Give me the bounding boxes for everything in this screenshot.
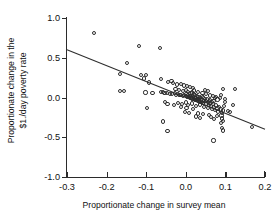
- x-axis-label: Proportionate change in survey mean: [36, 200, 272, 210]
- data-point: [198, 116, 202, 120]
- data-point: [186, 90, 190, 94]
- y-tick-label: -1.0: [44, 172, 60, 182]
- data-point: [159, 77, 163, 81]
- data-point: [125, 61, 129, 65]
- x-tick-label: -0.3: [59, 182, 75, 192]
- data-point: [221, 108, 225, 112]
- data-point: [122, 89, 126, 93]
- data-point: [228, 110, 232, 114]
- data-point: [165, 129, 169, 133]
- data-points: [67, 18, 265, 177]
- data-point: [221, 87, 225, 91]
- data-point: [179, 105, 183, 109]
- data-point: [184, 106, 188, 110]
- data-point: [183, 110, 187, 114]
- data-point: [145, 106, 149, 110]
- x-tick-label: 0.2: [259, 182, 272, 192]
- data-point: [223, 97, 227, 101]
- x-tick-label: -0.1: [138, 182, 154, 192]
- data-point: [218, 96, 222, 100]
- data-point: [221, 128, 225, 132]
- plot-area: -1.0-0.50.00.51.0 -0.3-0.2-0.10.00.10.2: [66, 18, 265, 178]
- data-point: [143, 90, 147, 94]
- data-point: [231, 103, 235, 107]
- data-point: [250, 125, 254, 129]
- y-tick-label: 0.0: [47, 93, 60, 103]
- y-tick-label: -0.5: [44, 132, 60, 142]
- data-point: [187, 111, 191, 115]
- data-point: [206, 89, 210, 93]
- data-point: [118, 72, 122, 76]
- y-axis-label-line-2: $1./day poverty rate: [18, 37, 30, 143]
- scatter-plot-figure: Proportionate change in the $1./day pove…: [0, 0, 280, 222]
- x-tick-label: 0.0: [179, 182, 192, 192]
- data-point: [92, 31, 96, 35]
- data-point: [201, 112, 205, 116]
- data-point: [161, 119, 165, 123]
- data-point: [211, 138, 215, 142]
- data-point: [194, 114, 198, 118]
- data-point: [158, 46, 162, 50]
- y-tick-mark: [62, 177, 67, 178]
- data-point: [150, 91, 154, 95]
- x-tick-mark: [265, 172, 266, 177]
- y-tick-label: 0.5: [47, 53, 60, 63]
- data-point: [219, 121, 223, 125]
- data-point: [147, 80, 151, 84]
- x-tick-label: -0.2: [99, 182, 115, 192]
- data-point: [165, 102, 169, 106]
- data-point: [222, 104, 226, 108]
- data-point: [137, 44, 141, 48]
- y-tick-label: 1.0: [47, 13, 60, 23]
- y-axis-label-line-1: Proportionate change in the: [7, 37, 19, 143]
- data-point: [196, 90, 200, 94]
- x-tick-label: 0.1: [219, 182, 232, 192]
- y-axis-label: Proportionate change in the $1./day pove…: [0, 0, 36, 180]
- data-point: [142, 76, 146, 80]
- data-point: [233, 87, 237, 91]
- data-point: [191, 107, 195, 111]
